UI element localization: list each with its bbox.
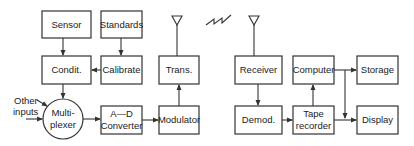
- calibrate-label: Calibrate: [102, 64, 140, 75]
- condit-label: Condit.: [51, 64, 81, 75]
- display-block: Display: [357, 106, 398, 134]
- calibrate-block: Calibrate: [101, 56, 142, 84]
- tape-label-2: recorder: [296, 120, 331, 131]
- tape-recorder-block: Tape recorder: [293, 106, 334, 134]
- other-inputs-label: Other inputs: [13, 95, 39, 117]
- computer-block: Computer: [293, 56, 335, 84]
- antenna-tx-icon: [172, 16, 182, 56]
- display-label: Display: [362, 114, 393, 125]
- receiver-label: Receiver: [240, 64, 278, 75]
- ad-converter-block: A—D Converter: [101, 106, 143, 134]
- demod-label: Demod.: [242, 114, 275, 125]
- sensor-label: Sensor: [51, 19, 81, 30]
- multiplexer-label-1: Multi-: [51, 107, 74, 118]
- modulator-block: Modulator: [158, 106, 200, 134]
- storage-block: Storage: [357, 56, 398, 84]
- condit-block: Condit.: [42, 56, 91, 84]
- multiplexer-block: Multi- plexer: [43, 99, 83, 139]
- radio-link-icon: [206, 15, 231, 25]
- antenna-rx-icon: [249, 16, 259, 56]
- modulator-label: Modulator: [158, 114, 200, 125]
- standards-label: Standards: [100, 19, 144, 30]
- tape-label-1: Tape: [303, 108, 324, 119]
- ad-label-2: Converter: [101, 120, 143, 131]
- trans-block: Trans.: [159, 56, 199, 84]
- demod-block: Demod.: [235, 106, 282, 134]
- receiver-block: Receiver: [235, 56, 282, 84]
- standards-block: Standards: [100, 11, 144, 38]
- storage-label: Storage: [361, 64, 394, 75]
- trans-label: Trans.: [166, 64, 193, 75]
- telemetry-block-diagram: Sensor Standards Condit. Calibrate Trans…: [0, 0, 414, 146]
- computer-label: Computer: [293, 64, 335, 75]
- multiplexer-label-2: plexer: [50, 119, 76, 130]
- ad-label-1: A—D: [110, 108, 133, 119]
- svg-text:inputs: inputs: [13, 106, 39, 117]
- svg-text:Other: Other: [14, 95, 38, 106]
- sensor-block: Sensor: [42, 11, 91, 38]
